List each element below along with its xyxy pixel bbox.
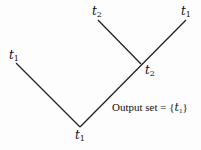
tree-edges [0,0,201,150]
edge-root-left [16,63,80,127]
node-label-top-left-leaf: t2 [92,5,102,19]
edge-junction-top-left [98,20,141,64]
tree-diagram: t1 t1 t2 t2 t1 Output set = {t1} [0,0,201,150]
node-label-junction: t2 [145,64,155,78]
output-set-caption: Output set = {t1} [112,102,188,115]
node-label-root: t1 [75,129,85,143]
node-label-left-leaf: t1 [9,49,19,63]
node-label-top-right-leaf: t1 [181,5,191,19]
